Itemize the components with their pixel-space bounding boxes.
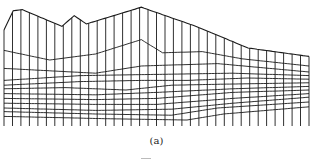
figure-caption: (a) (0, 135, 313, 146)
cut-off-element (141, 158, 151, 159)
vertical-grid-lines (4, 8, 309, 126)
